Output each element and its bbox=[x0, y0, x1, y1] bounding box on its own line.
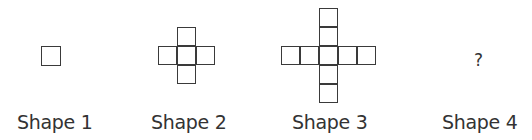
square-cell bbox=[281, 46, 300, 65]
square-cell bbox=[300, 46, 319, 65]
square-cell bbox=[196, 46, 215, 65]
square-cell bbox=[158, 46, 177, 65]
square-cell bbox=[177, 27, 196, 46]
square-cell bbox=[319, 46, 338, 65]
square-cell bbox=[357, 46, 376, 65]
square-cell bbox=[319, 8, 338, 27]
question-mark: ? bbox=[474, 50, 483, 70]
shape-1-label: Shape 1 bbox=[17, 111, 93, 133]
square-cell bbox=[41, 46, 61, 66]
square-cell bbox=[177, 65, 196, 84]
shape-3-label: Shape 3 bbox=[292, 111, 368, 133]
shape-4-label: Shape 4 bbox=[442, 111, 518, 133]
square-cell bbox=[319, 65, 338, 84]
square-cell bbox=[319, 84, 338, 103]
square-cell bbox=[319, 27, 338, 46]
shape-2-label: Shape 2 bbox=[151, 111, 227, 133]
square-cell bbox=[177, 46, 196, 65]
square-cell bbox=[338, 46, 357, 65]
